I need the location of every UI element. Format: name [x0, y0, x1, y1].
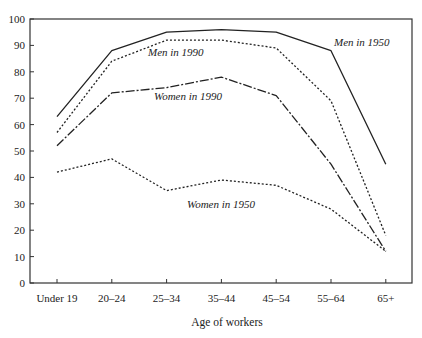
- series-labels: Men in 1950Men in 1990Women in 1990Women…: [147, 36, 390, 210]
- y-tick-label: 60: [14, 119, 26, 131]
- y-tick-label: 50: [14, 145, 26, 157]
- y-tick-label: 70: [14, 92, 26, 104]
- x-tick-label: 20–24: [98, 292, 126, 304]
- series-label: Men in 1990: [147, 46, 204, 58]
- x-tick-label: 25–34: [153, 292, 181, 304]
- y-tick-label: 90: [14, 39, 26, 51]
- plot-frame: [30, 19, 412, 283]
- x-tick-label: 65+: [377, 292, 394, 304]
- x-tick-label: Under 19: [36, 292, 78, 304]
- y-tick-label: 10: [14, 251, 26, 263]
- series-label: Men in 1950: [333, 36, 390, 48]
- x-tick-label: 35–44: [208, 292, 236, 304]
- series-label: Women in 1950: [187, 198, 256, 210]
- y-tick-label: 0: [20, 277, 26, 289]
- y-tick-label: 100: [9, 13, 26, 25]
- y-tick-label: 20: [14, 224, 26, 236]
- y-tick-label: 80: [14, 66, 26, 78]
- axes: 0102030405060708090100Under 1920–2425–34…: [9, 13, 413, 329]
- x-tick-label: 55–64: [317, 292, 345, 304]
- x-tick-label: 45–54: [262, 292, 290, 304]
- series-label: Women in 1990: [154, 90, 223, 102]
- series-lines: [57, 30, 386, 252]
- line-chart: 0102030405060708090100Under 1920–2425–34…: [0, 0, 422, 338]
- y-tick-label: 30: [14, 198, 26, 210]
- x-axis-title: Age of workers: [191, 316, 263, 329]
- y-tick-label: 40: [14, 171, 26, 183]
- chart-svg: 0102030405060708090100Under 1920–2425–34…: [0, 0, 422, 338]
- series-women-in-1990: [57, 77, 386, 251]
